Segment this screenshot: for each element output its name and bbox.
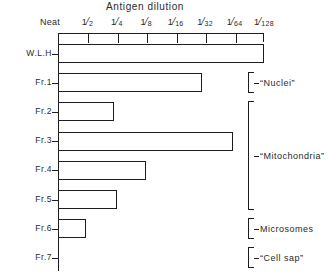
category-label: Fr.3 [8, 135, 52, 145]
category-label: Fr.6 [8, 223, 52, 233]
group-bracket-stub [254, 258, 259, 259]
axis-tick-label: 1⁄16 [168, 17, 184, 27]
dilution-axis [58, 33, 264, 42]
group-bracket-stub [254, 156, 259, 157]
group-label: “Mitochondria” [260, 151, 325, 161]
axis-tick-label: 1⁄32 [197, 17, 213, 27]
axis-tick-label: 1⁄4 [111, 17, 123, 27]
group-label: “Nuclei” [260, 78, 295, 88]
bar[interactable] [58, 132, 233, 151]
bar[interactable] [58, 190, 117, 209]
group-label: Microsomes [260, 224, 314, 234]
group-bracket-stub [254, 83, 259, 84]
antigen-dilution-figure: Antigen dilution Neat1⁄21⁄41⁄81⁄161⁄321⁄… [0, 0, 328, 278]
category-label: Fr.1 [8, 77, 52, 87]
bar[interactable] [58, 219, 86, 238]
bar[interactable] [58, 73, 202, 92]
axis-tick-label: 1⁄64 [227, 17, 243, 27]
category-label: Fr.7 [8, 252, 52, 262]
fraction-group-brackets: “Nuclei”“Mitochondria”Microsomes“Cell sa… [248, 0, 328, 278]
group-label: “Cell sap” [260, 253, 304, 263]
axis-tick-label: 1⁄2 [82, 17, 94, 27]
category-label: Fr.4 [8, 164, 52, 174]
category-labels: W.L.HFr.1Fr.2Fr.3Fr.4Fr.5Fr.6Fr.7 [0, 0, 52, 278]
category-label: Fr.2 [8, 106, 52, 116]
axis-tick-label: 1⁄8 [141, 17, 153, 27]
bar[interactable] [58, 161, 146, 180]
category-label: W.L.H [8, 48, 52, 58]
bars-plot-area [58, 42, 264, 271]
bar[interactable] [58, 44, 264, 63]
group-bracket-stub [254, 229, 259, 230]
category-label: Fr.5 [8, 194, 52, 204]
bar[interactable] [58, 102, 114, 121]
